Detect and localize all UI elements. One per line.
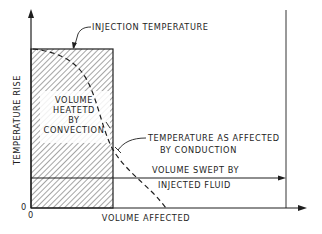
volume-swept-label-line1: VOLUME SWEPT BY [152,165,239,175]
volume-swept-arrow-icon [278,176,286,181]
injection-temperature-leader [74,27,91,48]
conduction-label-line2: BY CONDUCTION [160,145,237,155]
x-axis-arrow-icon [298,205,307,211]
volume-heated-label-line3: BY [68,115,80,125]
volume-swept-label-line2: INJECTED FLUID [158,180,231,190]
volume-heated-label-line2: HEATETD [53,105,95,115]
x-axis-label: VOLUME AFFECTED [102,213,190,223]
y-origin-label: 0 [21,202,27,212]
conduction-label-line1: TEMPERATURE AS AFFECTED [147,133,280,143]
injection-temperature-label: INJECTION TEMPERATURE [92,22,209,32]
injection-temperature-leader-tip-icon [72,42,77,49]
volume-heated-label-line4: CONVECTION [44,125,105,135]
y-axis-arrow-icon [28,9,34,18]
conduction-leader [118,138,146,150]
x-origin-label: 0 [28,210,34,220]
temperature-volume-diagram: INJECTION TEMPERATURE VOLUME HEATETD BY … [0,0,322,234]
y-axis-label: TEMPERATURE RISE [12,75,22,166]
volume-heated-label-line1: VOLUME [55,95,93,105]
